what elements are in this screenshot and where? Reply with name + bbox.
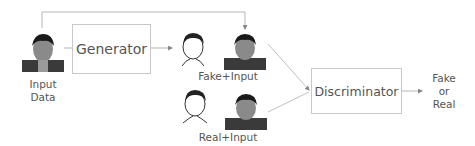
output-fake: Fake <box>424 72 464 85</box>
fake-sketch <box>178 30 208 72</box>
input-label-line2: Data <box>16 91 70 104</box>
real-pair-label: Real+Input <box>186 131 270 144</box>
sketch-face-icon <box>178 30 208 68</box>
output-label: Fake or Real <box>424 72 464 111</box>
discriminator-box: Discriminator <box>311 68 402 114</box>
generator-box: Generator <box>72 24 151 74</box>
person-photo-icon <box>224 30 266 70</box>
person-photo-icon <box>225 90 267 130</box>
input-label-line1: Input <box>16 78 70 91</box>
real-pair-photo <box>225 90 267 134</box>
fake-pair-label: Fake+Input <box>186 70 270 83</box>
person-photo-icon <box>22 30 64 72</box>
sketch-face-icon <box>180 88 210 124</box>
input-label: Input Data <box>16 78 70 104</box>
fake-pair-photo <box>224 30 266 74</box>
generator-label: Generator <box>76 41 147 57</box>
output-real: Real <box>424 98 464 111</box>
input-photo <box>22 30 64 72</box>
output-or: or <box>424 85 464 98</box>
real-sketch <box>180 88 210 128</box>
discriminator-label: Discriminator <box>314 84 398 99</box>
